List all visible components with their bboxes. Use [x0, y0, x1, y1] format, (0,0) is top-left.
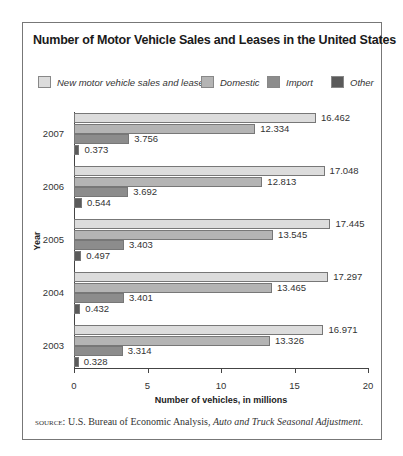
- x-tick-label: 5: [133, 380, 163, 391]
- value-label: 0.373: [84, 145, 108, 155]
- value-label: 12.813: [267, 177, 296, 187]
- value-label: 0.544: [87, 198, 111, 208]
- value-label: 0.497: [86, 251, 110, 261]
- bar: [74, 219, 330, 229]
- value-label: 0.432: [85, 304, 109, 314]
- bar: [74, 325, 323, 335]
- bar: [74, 293, 124, 303]
- bar: [74, 187, 128, 197]
- bar: [74, 166, 325, 176]
- source-prefix: source:: [35, 416, 65, 427]
- plot-area: Year Number of vehicles, in millions 200…: [0, 0, 403, 456]
- value-label: 16.462: [321, 113, 350, 123]
- x-tick: [148, 368, 149, 373]
- value-label: 17.048: [330, 166, 359, 176]
- x-tick-label: 20: [353, 380, 383, 391]
- bar: [74, 198, 82, 208]
- year-tick-label: 2003: [24, 341, 64, 351]
- value-label: 13.326: [275, 336, 304, 346]
- value-label: 3.692: [133, 187, 157, 197]
- value-label: 0.328: [84, 357, 108, 367]
- value-label: 3.756: [134, 134, 158, 144]
- bar: [74, 240, 124, 250]
- value-label: 3.314: [128, 346, 152, 356]
- bar: [74, 145, 79, 155]
- value-label: 17.297: [333, 272, 362, 282]
- x-axis-label: Number of vehicles, in millions: [74, 395, 368, 405]
- year-tick-label: 2006: [24, 182, 64, 192]
- value-label: 13.545: [278, 230, 307, 240]
- bar: [74, 230, 273, 240]
- x-tick: [295, 368, 296, 373]
- value-label: 3.401: [129, 293, 153, 303]
- x-tick-label: 10: [206, 380, 236, 391]
- year-tick-label: 2005: [24, 235, 64, 245]
- bar: [74, 251, 81, 261]
- bar: [74, 272, 328, 282]
- value-label: 12.334: [260, 124, 289, 134]
- x-tick: [221, 368, 222, 373]
- value-label: 3.403: [129, 240, 153, 250]
- bar: [74, 134, 129, 144]
- value-label: 16.971: [328, 325, 357, 335]
- x-tick: [74, 368, 75, 373]
- bar: [74, 113, 316, 123]
- bar: [74, 346, 123, 356]
- source-text: U.S. Bureau of Economic Analysis,: [65, 416, 212, 427]
- bar: [74, 283, 272, 293]
- x-tick: [368, 368, 369, 373]
- x-tick-label: 15: [280, 380, 310, 391]
- bar: [74, 304, 80, 314]
- source-title: Auto and Truck Seasonal Adjustment: [213, 416, 361, 427]
- bar: [74, 357, 79, 367]
- year-tick-label: 2007: [24, 129, 64, 139]
- x-tick-label: 0: [59, 380, 89, 391]
- year-tick-label: 2004: [24, 288, 64, 298]
- source-suffix: .: [360, 416, 363, 427]
- value-label: 13.465: [277, 283, 306, 293]
- value-label: 17.445: [335, 219, 364, 229]
- bar: [74, 177, 262, 187]
- source-note: source: U.S. Bureau of Economic Analysis…: [35, 416, 363, 427]
- bar: [74, 336, 270, 346]
- bar: [74, 124, 255, 134]
